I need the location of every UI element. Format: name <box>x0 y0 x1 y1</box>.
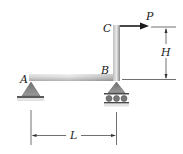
label-a: A <box>19 73 28 86</box>
column-bc <box>113 25 120 81</box>
label-l: L <box>69 129 77 142</box>
frame-diagram: A B C P H L <box>0 0 183 154</box>
load-arrow-p <box>120 23 149 30</box>
label-h: H <box>160 46 171 59</box>
roller-support-b <box>104 82 129 107</box>
label-c: C <box>103 22 112 35</box>
label-p: P <box>145 10 154 23</box>
label-b: B <box>100 64 109 77</box>
